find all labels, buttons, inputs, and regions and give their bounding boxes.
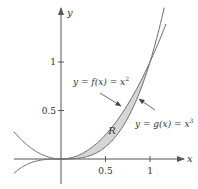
x-tick-label-0.5: 0.5 xyxy=(98,166,113,176)
region-between-curves-diagram: x y 0.5 1 0.5 1 y = f(x) = x2 y = g(x) =… xyxy=(0,0,198,189)
curve-g-label: y = g(x) = x3 xyxy=(134,117,194,129)
y-tick-label-1: 1 xyxy=(50,57,56,67)
curve-f-pointer-arrow xyxy=(100,93,121,106)
curve-g-label-exponent: 3 xyxy=(190,117,194,124)
y-tick-label-0.5: 0.5 xyxy=(42,106,57,116)
curve-f-label: y = f(x) = x2 xyxy=(72,75,129,87)
curve-f-label-exponent: 2 xyxy=(125,75,129,82)
y-axis-label: y xyxy=(66,7,73,18)
x-tick-label-1: 1 xyxy=(147,166,153,176)
region-r-label: R xyxy=(107,125,116,136)
curve-g-x-cubed xyxy=(14,8,164,174)
curve-f-label-text: y = f(x) = x xyxy=(72,77,125,87)
curve-g-pointer-arrow xyxy=(139,99,155,110)
x-axis-label: x xyxy=(187,153,193,164)
curve-g-label-text: y = g(x) = x xyxy=(134,119,190,129)
curve-f-x-squared xyxy=(14,24,166,159)
